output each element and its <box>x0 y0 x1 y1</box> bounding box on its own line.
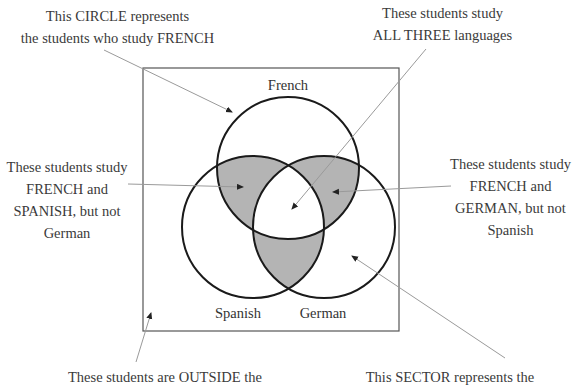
annotation-french-circle: This CIRCLE represents the students who … <box>0 5 235 49</box>
annotation-all-three: These students study ALL THREE languages <box>355 2 530 46</box>
annotation-german-sector: This SECTOR represents the <box>335 366 565 388</box>
spanish-label: Spanish <box>215 305 262 321</box>
annotation-french-german: These students study FRENCH and GERMAN, … <box>440 153 581 241</box>
french-label: French <box>268 77 309 93</box>
annotation-outside: These students are OUTSIDE the <box>40 366 290 388</box>
annotation-french-spanish: These students study FRENCH and SPANISH,… <box>0 156 134 244</box>
german-label: German <box>300 305 347 321</box>
